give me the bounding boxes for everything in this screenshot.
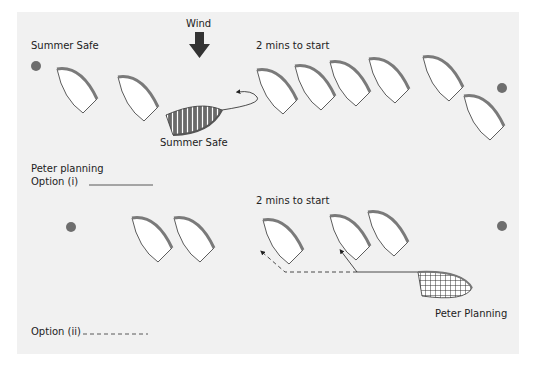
- boat: [57, 69, 97, 113]
- boat: [263, 220, 303, 264]
- boat: [464, 96, 504, 140]
- summer-safe-boat-label: Summer Safe: [160, 137, 228, 149]
- boat: [330, 216, 370, 260]
- top-scenario-title: Summer Safe: [31, 40, 99, 52]
- start-mark-right-top: [497, 83, 507, 93]
- option-ii-path: [262, 252, 357, 272]
- start-mark-left-top: [31, 61, 41, 71]
- bottom-timing-label: 2 mins to start: [256, 195, 329, 207]
- boat: [295, 66, 335, 110]
- boat: [368, 212, 408, 256]
- boat: [369, 59, 409, 103]
- boat: [174, 218, 214, 262]
- wind-arrow-icon: [189, 32, 210, 58]
- top-timing-label: 2 mins to start: [256, 40, 329, 52]
- option-i-label: Option (i): [31, 176, 78, 188]
- option-ii-label: Option (ii): [31, 326, 81, 338]
- boat: [118, 77, 158, 121]
- start-mark-left-bottom: [66, 222, 76, 232]
- boat: [132, 218, 172, 262]
- peter-planning-boat-label: Peter Planning: [435, 308, 507, 320]
- wind-label: Wind: [186, 18, 211, 30]
- peter-planning-boat: [418, 272, 472, 298]
- bottom-scenario-title: Peter planning: [31, 163, 104, 175]
- summer-safe-path-arrow: [222, 92, 258, 110]
- start-mark-right-bottom: [497, 221, 507, 231]
- boat: [330, 62, 370, 106]
- boat: [257, 70, 297, 114]
- boat: [423, 57, 463, 101]
